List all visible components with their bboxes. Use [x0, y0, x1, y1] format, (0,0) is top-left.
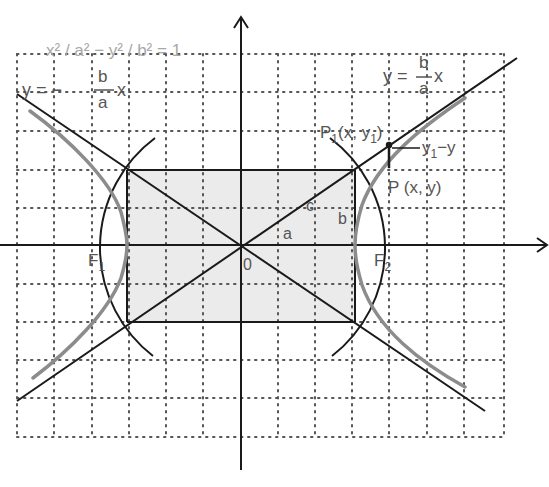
point-p-label: P (x, y)	[388, 178, 442, 197]
segment-b-label: b	[338, 210, 347, 227]
segment-c-label: c	[306, 197, 314, 214]
point-p1-label: P1(x, y1)	[320, 123, 383, 146]
svg-text:a: a	[419, 79, 429, 98]
svg-text:y = −: y = −	[22, 80, 62, 100]
svg-text:a: a	[98, 93, 108, 112]
asymptote-negative-label: y = − b a x	[22, 67, 126, 112]
difference-label: y1−y	[422, 138, 456, 161]
origin-label: 0	[243, 256, 252, 273]
svg-text:y =: y =	[383, 66, 408, 86]
equation-label: x² / a² − y² / b² = 1	[46, 41, 181, 60]
svg-text:x: x	[434, 66, 443, 86]
focus-left-label: F1	[88, 251, 105, 274]
segment-a-label: a	[283, 225, 292, 242]
svg-text:b: b	[98, 67, 107, 86]
hyperbola-diagram: x² / a² − y² / b² = 1 y = − b a x y = b …	[0, 0, 549, 487]
asymptote-positive-label: y = b a x	[383, 53, 443, 98]
svg-text:b: b	[419, 53, 428, 72]
svg-text:x: x	[117, 80, 126, 100]
